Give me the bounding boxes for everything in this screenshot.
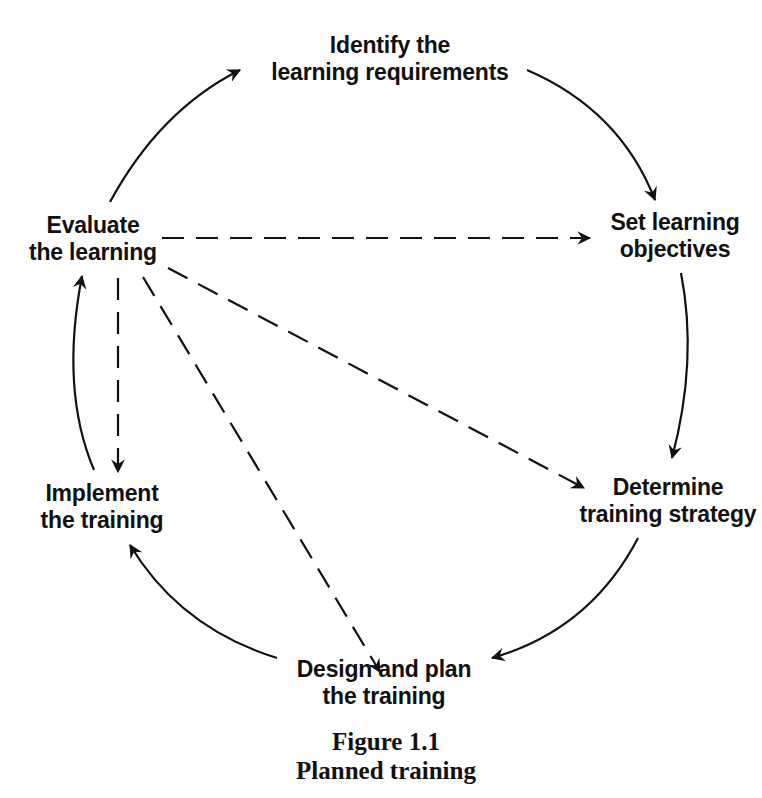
dashed-arrow-evaluate-to-strategy xyxy=(168,268,584,488)
arrow-identify-to-objectives xyxy=(527,70,655,200)
node-identify-line-2: learning requirements xyxy=(240,59,540,86)
node-design-and-plan-the-training: Design and plan the training xyxy=(278,656,490,710)
node-implement-the-training: Implement the training xyxy=(22,480,182,534)
arrow-evaluate-to-identify xyxy=(110,70,240,202)
node-identify-learning-requirements: Identify the learning requirements xyxy=(240,32,540,86)
node-implement-line-2: the training xyxy=(22,507,182,534)
figure-caption: Figure 1.1 Planned training xyxy=(5,727,762,785)
node-implement-line-1: Implement xyxy=(22,480,182,507)
node-evaluate-line-2: the learning xyxy=(18,239,168,266)
figure-title: Planned training xyxy=(5,756,762,785)
node-design-line-2: the training xyxy=(278,683,490,710)
node-strategy-line-1: Determine xyxy=(574,474,762,501)
node-strategy-line-2: training strategy xyxy=(574,501,762,528)
planned-training-diagram: Identify the learning requirements Set l… xyxy=(0,0,762,798)
node-evaluate-the-learning: Evaluate the learning xyxy=(18,212,168,266)
node-identify-line-1: Identify the xyxy=(240,32,540,59)
arrow-objectives-to-strategy xyxy=(672,273,688,458)
figure-number: Figure 1.1 xyxy=(5,727,762,756)
node-design-line-1: Design and plan xyxy=(278,656,490,683)
node-determine-training-strategy: Determine training strategy xyxy=(574,474,762,528)
dashed-arrow-evaluate-to-design xyxy=(143,277,380,672)
node-objectives-line-2: objectives xyxy=(590,236,760,263)
arrow-strategy-to-design xyxy=(492,538,638,658)
node-objectives-line-1: Set learning xyxy=(590,209,760,236)
arrow-implement-to-evaluate xyxy=(73,276,94,470)
arrow-design-to-implement xyxy=(130,545,277,658)
node-evaluate-line-1: Evaluate xyxy=(18,212,168,239)
node-set-learning-objectives: Set learning objectives xyxy=(590,209,760,263)
